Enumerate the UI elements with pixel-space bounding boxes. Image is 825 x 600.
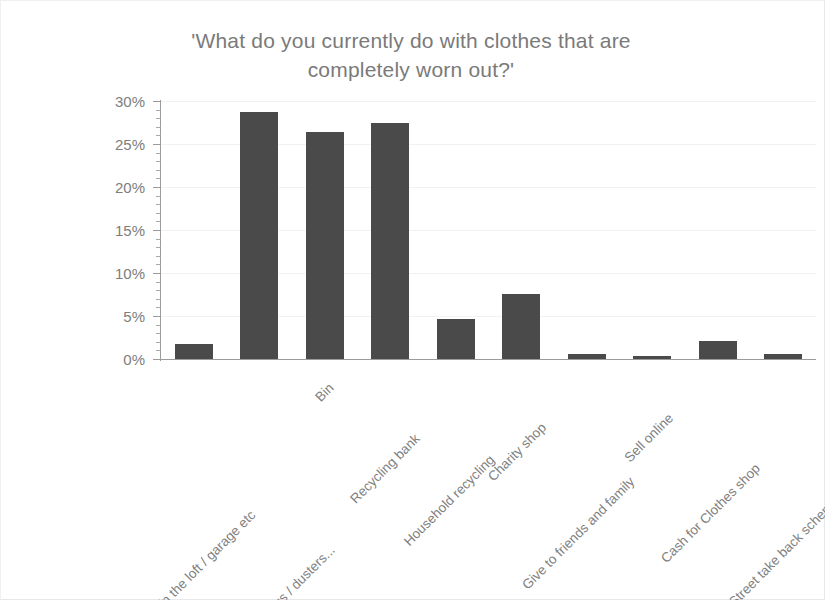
y-axis-major-tick — [153, 101, 161, 102]
y-axis-minor-tick — [156, 325, 161, 326]
y-axis-tick-label: 10% — [89, 266, 145, 281]
y-axis-major-tick — [153, 187, 161, 188]
y-axis-minor-tick — [156, 153, 161, 154]
y-axis-minor-tick — [156, 247, 161, 248]
y-axis-minor-tick — [156, 221, 161, 222]
y-axis-tick-label: 25% — [89, 137, 145, 152]
bar[interactable] — [437, 319, 475, 359]
y-axis-tick-label: 15% — [89, 223, 145, 238]
x-axis-category-label: Charity shop — [486, 421, 549, 484]
y-axis-minor-tick — [156, 264, 161, 265]
bar[interactable] — [371, 123, 409, 359]
y-axis-minor-tick — [156, 290, 161, 291]
y-axis-minor-tick — [156, 299, 161, 300]
y-axis-minor-tick — [156, 213, 161, 214]
y-axis-minor-tick — [156, 127, 161, 128]
chart-title-line-1: 'What do you currently do with clothes t… — [101, 26, 721, 55]
y-axis-major-tick — [153, 144, 161, 145]
y-axis-tick-label: 0% — [89, 352, 145, 367]
bar[interactable] — [502, 294, 540, 359]
y-axis-minor-tick — [156, 170, 161, 171]
y-axis-tick-label: 20% — [89, 180, 145, 195]
y-axis-minor-tick — [156, 333, 161, 334]
y-axis-minor-tick — [156, 161, 161, 162]
y-axis-minor-tick — [156, 256, 161, 257]
y-axis-minor-tick — [156, 196, 161, 197]
x-axis-category-label: Sell online — [622, 411, 676, 465]
y-axis-minor-tick — [156, 282, 161, 283]
x-axis-category-label: Give to friends and family — [520, 475, 638, 593]
y-axis-minor-tick — [156, 350, 161, 351]
y-axis-tick-label: 30% — [89, 94, 145, 109]
y-axis-minor-tick — [156, 178, 161, 179]
x-axis-category-label: Bin — [313, 381, 337, 405]
y-axis-major-tick — [153, 273, 161, 274]
y-axis-major-tick — [153, 359, 161, 360]
y-axis-minor-tick — [156, 135, 161, 136]
y-axis-minor-tick — [156, 307, 161, 308]
x-axis-category-label: Cash for Clothes shop — [658, 461, 762, 565]
plot-area — [161, 101, 816, 359]
x-axis-category-label: Household recycling — [401, 453, 497, 549]
bar-chart-figure: 'What do you currently do with clothes t… — [0, 0, 825, 600]
y-axis-minor-tick — [156, 204, 161, 205]
x-axis-line — [160, 359, 816, 360]
y-axis-major-tick — [153, 316, 161, 317]
bar[interactable] — [306, 132, 344, 359]
y-axis-labels: 0%5%10%15%20%25%30% — [89, 1, 145, 600]
bar[interactable] — [175, 344, 213, 359]
bar[interactable] — [240, 112, 278, 359]
y-axis-tick-label: 5% — [89, 309, 145, 324]
chart-title-line-2: completely worn out?' — [101, 55, 721, 84]
y-axis-minor-tick — [156, 342, 161, 343]
y-axis-minor-tick — [156, 118, 161, 119]
y-axis-minor-tick — [156, 110, 161, 111]
y-axis-minor-tick — [156, 239, 161, 240]
x-axis-category-label: Recycling bank — [348, 432, 423, 507]
chart-title: 'What do you currently do with clothes t… — [101, 26, 721, 84]
gridline — [161, 101, 816, 102]
y-axis-major-tick — [153, 230, 161, 231]
bar[interactable] — [699, 341, 737, 359]
